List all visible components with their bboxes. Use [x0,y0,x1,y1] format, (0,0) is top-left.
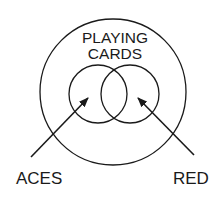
arrow-aces [31,98,88,157]
set-label-red: RED [173,170,209,187]
arrow-red [138,98,194,155]
set-label-aces: ACES [16,170,62,187]
universe-label-line1: PLAYING [82,30,148,46]
venn-diagram: PLAYING CARDS ACES RED [0,0,217,199]
set-circle-red [101,65,159,123]
universe-label-line2: CARDS [82,46,148,62]
set-circle-aces [69,65,127,123]
